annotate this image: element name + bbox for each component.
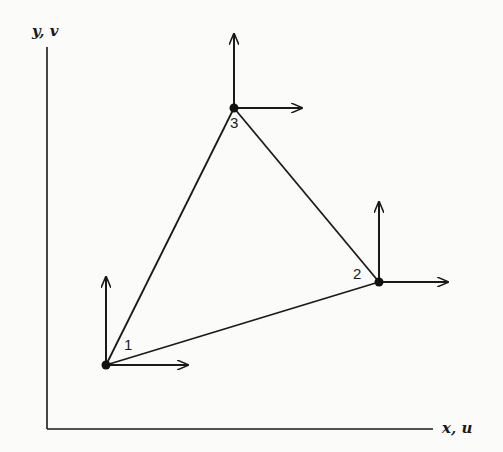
coordinate-axes: [47, 47, 433, 429]
diagram-svg: [0, 0, 503, 452]
node-3-label: 3: [230, 114, 238, 131]
node-1-label: 1: [124, 336, 132, 353]
dof-arrows: [106, 34, 448, 365]
edge-3-1: [106, 108, 234, 365]
node-2-label: 2: [353, 265, 361, 282]
triangle-element: [106, 108, 379, 365]
x-axis-label: x, u: [442, 419, 472, 437]
edge-2-3: [234, 108, 379, 282]
edge-1-2: [106, 282, 379, 365]
node-3-dot: [230, 104, 239, 113]
node-1-dot: [102, 361, 111, 370]
y-axis-label: y, v: [32, 22, 58, 40]
triangle-element-diagram: y, v x, u 1 2 3: [0, 0, 503, 452]
node-2-dot: [375, 278, 384, 287]
